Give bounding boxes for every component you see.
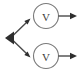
node-v-top-label: V <box>42 11 50 23</box>
node-v-bottom[interactable]: V <box>34 44 59 69</box>
edge-branch-to-bottom-line <box>13 40 27 54</box>
edge-branch-to-top <box>13 19 31 36</box>
arrowhead-icon-bottom-out <box>70 53 77 59</box>
branch-point-node <box>5 32 14 45</box>
arrowhead-icon-top-out <box>70 13 77 19</box>
node-v-top[interactable]: V <box>34 4 59 29</box>
edge-branch-to-top-line <box>13 23 27 37</box>
edge-bottom-out <box>59 53 78 59</box>
diagram-canvas: V V <box>0 0 81 75</box>
graph-diagram: V V <box>0 0 81 75</box>
left-arrowhead-icon <box>5 32 14 45</box>
node-v-bottom-label: V <box>42 51 50 63</box>
edge-top-out <box>59 13 78 19</box>
edge-branch-to-bottom <box>13 40 31 57</box>
